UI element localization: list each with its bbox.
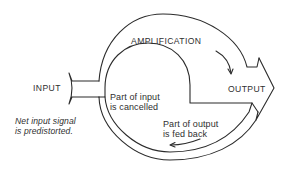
input-arrow-tail — [69, 73, 99, 104]
cancelled-text-line2: is cancelled — [110, 102, 158, 112]
predistorted-text-line2: is predistorted. — [15, 126, 73, 136]
feedback-direction-arrow — [171, 139, 200, 145]
input-label: INPUT — [33, 83, 61, 93]
fedback-text-line1: Part of output — [163, 119, 218, 129]
fedback-text-line2: is fed back — [163, 129, 207, 139]
amplification-label: AMPLIFICATION — [131, 36, 201, 46]
cancelled-text-line1: Part of input — [110, 92, 160, 102]
predistorted-text-line1: Net input signal — [15, 116, 76, 126]
output-label: OUTPUT — [228, 84, 266, 94]
outer-amplification-arc — [99, 14, 259, 81]
